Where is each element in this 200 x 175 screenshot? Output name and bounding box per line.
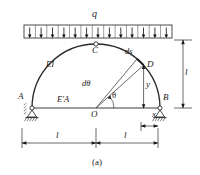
x-label: x xyxy=(152,110,156,119)
y-label: y xyxy=(146,80,150,89)
span-dimensions xyxy=(22,122,159,148)
dtheta-label: dθ xyxy=(82,79,90,88)
ray-to-ds-end xyxy=(96,59,137,108)
radial-lines xyxy=(96,59,144,108)
origin-label: O xyxy=(91,110,98,119)
distributed-load-group xyxy=(24,25,172,38)
crown-label: C xyxy=(92,46,98,55)
span-left-label: l xyxy=(56,131,59,140)
point-d-label: D xyxy=(147,60,154,69)
arch-stiffness-label: EI xyxy=(46,60,54,69)
left-support-side-hatch xyxy=(24,103,27,114)
arch-structure-diagram xyxy=(0,0,200,175)
figure-caption: (a) xyxy=(92,158,102,167)
load-label: q xyxy=(92,9,97,19)
ds-label: ds xyxy=(125,47,133,56)
load-arrows xyxy=(28,28,168,39)
span-right-label: l xyxy=(124,131,127,140)
tie-stiffness-label: E'A xyxy=(57,95,69,104)
theta-label: θ xyxy=(112,91,116,100)
right-support-label: B xyxy=(163,93,169,102)
ds-arc-element xyxy=(137,59,144,65)
left-pin-support xyxy=(24,103,39,121)
y-dimension xyxy=(142,64,146,108)
rise-dimension xyxy=(174,39,192,108)
rise-label: l xyxy=(185,68,188,77)
ray-to-d xyxy=(96,65,144,108)
left-support-label: A xyxy=(18,92,24,101)
